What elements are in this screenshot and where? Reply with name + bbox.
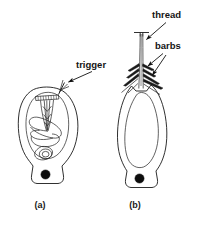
- barbs-label: barbs: [155, 40, 181, 51]
- figure-canvas: trigger thread barbs (a) (b): [0, 0, 199, 228]
- operculum-a: [36, 95, 59, 101]
- annotation-thread: thread: [147, 9, 182, 40]
- panel-b-discharged: [117, 33, 166, 188]
- nucleus-a: [41, 170, 50, 179]
- barbs-leader-line-2: [153, 55, 167, 75]
- trigger-leader-line: [69, 72, 93, 83]
- panel-caption-b: (b): [129, 200, 141, 210]
- annotation-trigger: trigger: [69, 59, 107, 82]
- thread-shaft-a: [41, 100, 54, 132]
- barbs-leader-line-1: [148, 54, 163, 67]
- thread-label: thread: [152, 9, 181, 20]
- panel-a-undischarged: [18, 80, 78, 184]
- capsule-b-cavity: [125, 93, 159, 168]
- thread-leader-line: [147, 23, 167, 40]
- trigger-bristle-a: [59, 80, 70, 95]
- capsule-a-outer: [18, 87, 78, 183]
- panel-caption-a: (a): [35, 200, 46, 210]
- nematocyst-figure: trigger thread barbs (a) (b): [0, 0, 199, 228]
- trigger-label: trigger: [76, 59, 106, 70]
- nucleus-b: [135, 174, 144, 183]
